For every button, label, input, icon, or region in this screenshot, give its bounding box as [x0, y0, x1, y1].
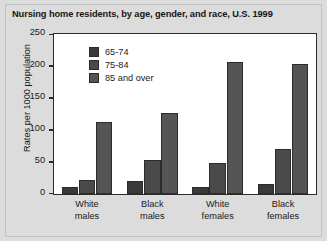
- x-axis-category-label: Whitemales: [54, 199, 119, 222]
- chart-figure: Nursing home residents, by age, gender, …: [0, 0, 327, 241]
- x-axis-category-line2: females: [250, 211, 315, 223]
- bar: [79, 180, 96, 193]
- bar: [96, 122, 113, 194]
- chart-legend: 65-74 75-84 85 and over: [89, 47, 154, 83]
- bar: [144, 160, 161, 194]
- x-axis-category-line1: White: [54, 199, 119, 211]
- bar: [209, 163, 226, 194]
- y-axis-tick-label: 50: [35, 155, 45, 165]
- y-axis-tick-label: 200: [30, 59, 45, 69]
- legend-label-75-84: 75-84: [105, 60, 129, 70]
- legend-item-85-and-over: 85 and over: [89, 73, 154, 83]
- x-axis-category-line2: females: [185, 211, 250, 223]
- x-axis-category-label: Blackmales: [120, 199, 185, 222]
- legend-label-85-and-over: 85 and over: [105, 73, 154, 83]
- y-axis-tick-label: 0: [40, 187, 45, 197]
- y-axis-tick-label: 100: [30, 123, 45, 133]
- bar-group: [185, 34, 250, 193]
- bar: [127, 181, 144, 194]
- x-axis-category-line1: Black: [250, 199, 315, 211]
- bar: [161, 113, 178, 194]
- bar: [258, 184, 275, 194]
- figure-inner-panel: Nursing home residents, by age, gender, …: [5, 4, 322, 237]
- x-axis-category-line2: males: [120, 211, 185, 223]
- x-axis-category-label: Blackfemales: [250, 199, 315, 222]
- x-axis-category-line1: Black: [120, 199, 185, 211]
- y-axis-tick-label: 250: [30, 27, 45, 37]
- legend-swatch-icon-75-84: [89, 60, 99, 70]
- bar: [275, 149, 292, 194]
- y-axis-tick-label: 150: [30, 91, 45, 101]
- bar: [227, 62, 244, 194]
- legend-swatch-icon-85-and-over: [89, 73, 99, 83]
- bar: [192, 187, 209, 193]
- bar: [292, 64, 309, 193]
- legend-item-75-84: 75-84: [89, 60, 154, 70]
- bar: [62, 187, 79, 193]
- legend-label-65-74: 65-74: [105, 47, 129, 57]
- legend-swatch-icon-65-74: [89, 47, 99, 57]
- chart-title: Nursing home residents, by age, gender, …: [12, 9, 273, 19]
- x-axis-category-line1: White: [185, 199, 250, 211]
- bar-group: [250, 34, 315, 193]
- x-axis-category-line2: males: [54, 211, 119, 223]
- x-axis-category-label: Whitefemales: [185, 199, 250, 222]
- legend-item-65-74: 65-74: [89, 47, 154, 57]
